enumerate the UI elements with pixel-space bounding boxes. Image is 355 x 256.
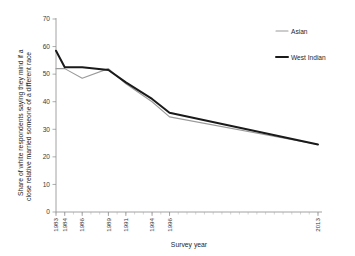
x-tick-label: 1991 [122, 217, 129, 231]
x-tick-label: 1986 [78, 217, 85, 231]
x-tick-label: 1989 [105, 217, 112, 231]
y-axis-title: Share of white respondents saying they m… [17, 49, 32, 201]
y-tick-label: 50 [43, 70, 51, 77]
x-axis-title: Survey year [171, 241, 208, 249]
x-tick-label: 1983 [52, 217, 59, 231]
y-tick-label: 40 [43, 98, 51, 105]
x-axis-ticks: 19831984198619891991199419962013 [52, 212, 321, 232]
legend-item-west-indian[interactable]: West Indian [276, 54, 326, 61]
y-tick-label: 60 [43, 43, 51, 50]
y-tick-label: 10 [43, 181, 51, 188]
y-axis-title-line1: Share of white respondents saying they m… [17, 49, 25, 196]
legend-label-west-indian: West Indian [291, 54, 326, 61]
legend-item-asian[interactable]: Asian [276, 28, 308, 35]
y-tick-label: 30 [43, 126, 51, 133]
y-tick-label: 70 [43, 15, 51, 22]
legend-label-asian: Asian [291, 28, 308, 35]
data-series-group [56, 51, 318, 145]
x-tick-label: 1984 [61, 217, 68, 231]
series-line-asian [56, 69, 318, 145]
chart-legend: Asian West Indian [276, 28, 326, 61]
x-tick-label: 2013 [314, 217, 321, 231]
y-axis-title-line2: close relative married someone of a diff… [25, 52, 32, 201]
chart-container: 010203040506070 198319841986198919911994… [0, 0, 355, 256]
line-chart: 010203040506070 198319841986198919911994… [0, 0, 355, 256]
x-tick-label: 1994 [148, 217, 155, 231]
y-tick-label: 20 [43, 153, 51, 160]
y-tick-label: 0 [46, 208, 50, 215]
series-line-west-indian [56, 51, 318, 145]
x-tick-label: 1996 [166, 217, 173, 231]
y-axis-ticks: 010203040506070 [43, 15, 56, 215]
